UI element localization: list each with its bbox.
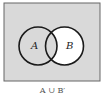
- set-b-label: B: [65, 40, 73, 51]
- caption: A ∪ B′: [0, 86, 105, 95]
- set-a-label: A: [30, 40, 38, 51]
- venn-diagram: A B: [0, 0, 105, 96]
